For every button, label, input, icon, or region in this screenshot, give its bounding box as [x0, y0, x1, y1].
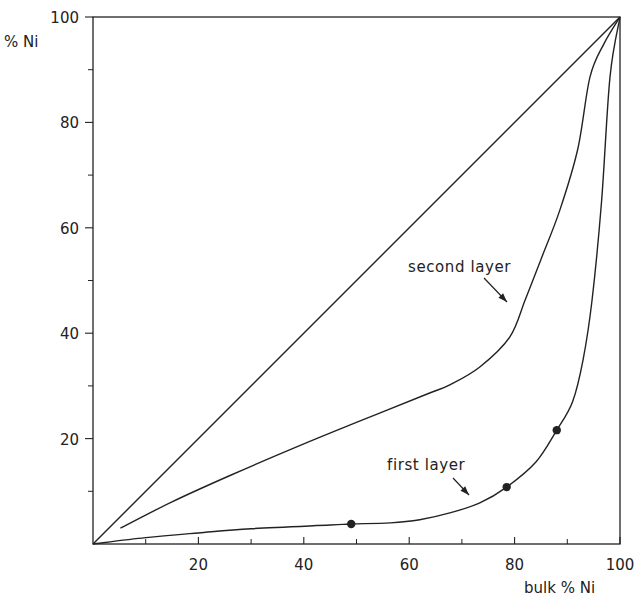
curves — [93, 17, 620, 544]
y-tick-label: 80 — [60, 114, 79, 132]
data-point-marker — [553, 426, 561, 434]
second-layer-curve — [120, 17, 620, 528]
x-tick-label: 100 — [606, 556, 635, 574]
y-axis-label: % Ni — [4, 33, 38, 51]
chart-figure: 2040608010020406080100 % Ni bulk % Ni se… — [0, 0, 644, 605]
x-tick-label: 40 — [294, 556, 313, 574]
axis-ticks: 2040608010020406080100 — [50, 9, 634, 574]
y-tick-label: 100 — [50, 9, 79, 27]
y-tick-label: 60 — [60, 220, 79, 238]
data-points — [347, 426, 561, 528]
data-point-marker — [347, 520, 355, 528]
x-axis-label: bulk % Ni — [524, 579, 595, 597]
x-tick-label: 60 — [400, 556, 419, 574]
x-tick-label: 80 — [505, 556, 524, 574]
diagonal-bulk-composition-curve — [93, 17, 620, 544]
x-tick-label: 20 — [189, 556, 208, 574]
second-layer-label: second layer — [408, 258, 511, 276]
y-tick-label: 20 — [60, 431, 79, 449]
data-point-marker — [502, 483, 510, 491]
y-tick-label: 40 — [60, 325, 79, 343]
first-layer-label: first layer — [387, 456, 466, 474]
